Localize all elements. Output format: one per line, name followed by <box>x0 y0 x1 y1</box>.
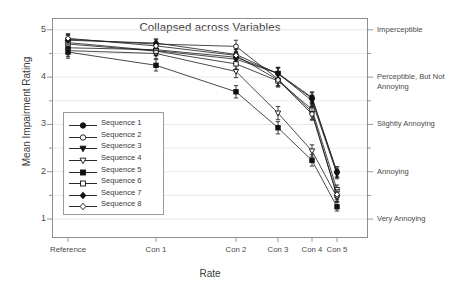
y-axis-label: Mean Impairment Rating <box>21 32 32 192</box>
legend-label: Sequence 7 <box>98 188 142 197</box>
legend-marker-filled-circle-icon <box>68 117 98 128</box>
legend-marker-open-square-icon <box>68 175 98 186</box>
y-tick-label: 5 <box>32 24 46 34</box>
legend-item[interactable]: Sequence 8 <box>68 198 159 210</box>
legend-marker-open-circle-icon <box>68 129 98 140</box>
legend-label: Sequence 1 <box>98 118 142 127</box>
legend-marker-filled-square-icon <box>68 164 98 175</box>
legend-marker-open-diamond-icon <box>68 198 98 209</box>
legend-item[interactable]: Sequence 5 <box>68 163 159 175</box>
right-axis-label: Perceptible, But Not Annoying <box>377 72 457 91</box>
legend-label: Sequence 2 <box>98 130 142 139</box>
right-axis-label: Slightly Annoying <box>377 119 457 129</box>
legend-marker-open-triangle-down-icon <box>68 152 98 163</box>
y-tick-label: 1 <box>32 213 46 223</box>
x-tick-label: Con 5 <box>307 245 367 254</box>
right-axis-label: Very Annoying <box>377 214 457 224</box>
legend-label: Sequence 6 <box>98 176 142 185</box>
y-tick-label: 4 <box>32 71 46 81</box>
legend-item[interactable]: Sequence 4 <box>68 152 159 164</box>
x-tick-label: Con 1 <box>126 245 186 254</box>
legend-item[interactable]: Sequence 3 <box>68 140 159 152</box>
chart-figure: Collapsed across Variables Mean Impairme… <box>0 0 457 300</box>
right-axis-label: Imperceptible <box>377 25 457 35</box>
chart-legend: Sequence 1Sequence 2Sequence 3Sequence 4… <box>63 112 164 215</box>
legend-item[interactable]: Sequence 7 <box>68 187 159 199</box>
legend-label: Sequence 8 <box>98 199 142 208</box>
y-tick-label: 3 <box>32 118 46 128</box>
legend-marker-filled-diamond-icon <box>68 187 98 198</box>
x-tick-label: Reference <box>38 245 98 254</box>
y-tick-label: 2 <box>32 166 46 176</box>
legend-label: Sequence 4 <box>98 153 142 162</box>
legend-label: Sequence 3 <box>98 141 142 150</box>
right-axis-label: Annoying <box>377 167 457 177</box>
legend-label: Sequence 5 <box>98 165 142 174</box>
legend-item[interactable]: Sequence 2 <box>68 129 159 141</box>
legend-item[interactable]: Sequence 6 <box>68 175 159 187</box>
x-axis-label: Rate <box>52 268 368 279</box>
legend-item[interactable]: Sequence 1 <box>68 117 159 129</box>
legend-marker-filled-triangle-down-icon <box>68 140 98 151</box>
